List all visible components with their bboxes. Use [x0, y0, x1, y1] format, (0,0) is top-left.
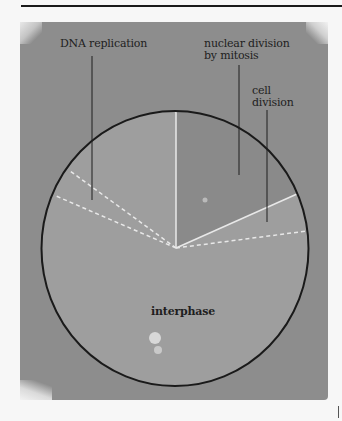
label-dna-replication: DNA replication: [60, 38, 147, 50]
texture-spot: [203, 198, 208, 203]
texture-spot: [149, 332, 161, 344]
label-cell-division-line2: division: [252, 97, 294, 109]
label-nuclear-division-line2: by mitosis: [204, 50, 259, 62]
texture-spot: [154, 346, 162, 354]
cell-cycle-diagram: [0, 0, 342, 421]
page-edge-mark: [338, 406, 339, 418]
label-interphase: interphase: [151, 306, 215, 318]
